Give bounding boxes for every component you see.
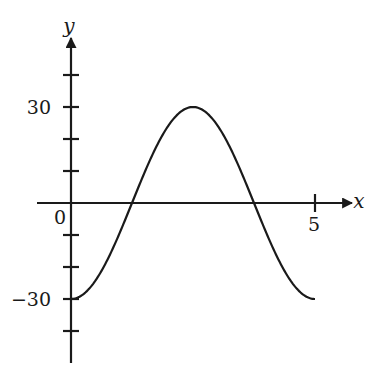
x-axis-label: x: [353, 189, 364, 213]
y-tick-label-neg30: −30: [11, 288, 51, 310]
chart: y x 0 5 30 −30: [0, 0, 375, 369]
y-axis-label: y: [62, 14, 75, 38]
y-tick-label-30: 30: [27, 96, 51, 118]
x-tick-label-0: 0: [54, 206, 66, 228]
x-tick-label-5: 5: [308, 213, 320, 235]
